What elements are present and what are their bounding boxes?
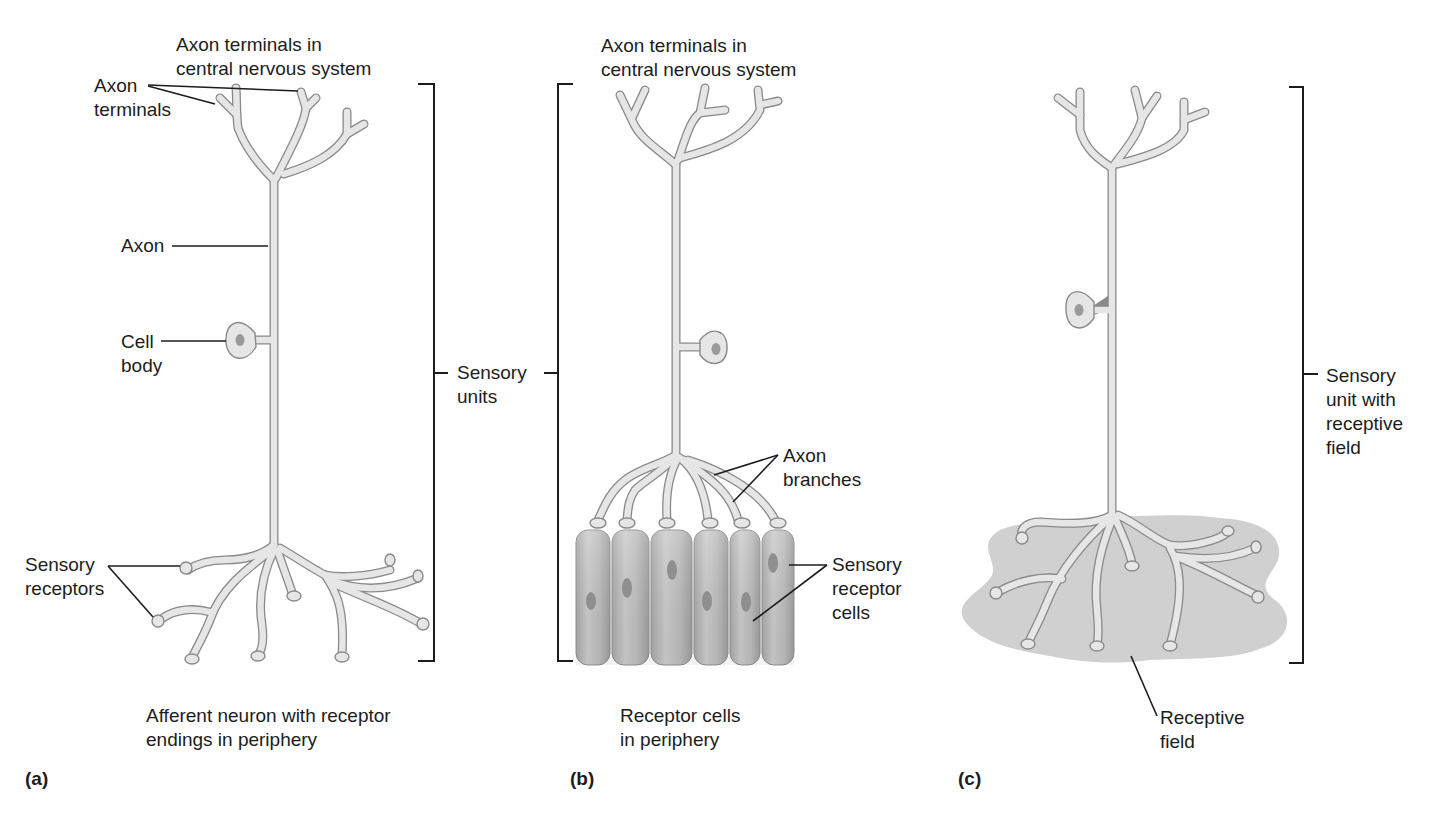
label-line: receptor	[832, 577, 902, 601]
nucleus	[1075, 304, 1084, 316]
panel-a-letter: (a)	[25, 768, 48, 790]
nucleus	[712, 343, 721, 355]
label-line: central nervous system	[176, 57, 371, 81]
axon-branches-label: Axon branches	[783, 444, 861, 492]
panel-b-letter: (b)	[570, 768, 594, 790]
caption-line: Receptor cells	[620, 704, 740, 728]
caption-line: Afferent neuron with receptor	[146, 704, 391, 728]
receptive-field-label: Receptive field	[1160, 706, 1245, 754]
label-line: receptive	[1326, 412, 1403, 436]
label-line: Axon terminals in	[601, 34, 796, 58]
label-line: Sensory	[832, 553, 902, 577]
panel-a-top-label: Axon terminals in central nervous system	[176, 33, 371, 81]
panel-a-caption: Afferent neuron with receptor endings in…	[146, 704, 391, 752]
panel-a-neuron	[152, 88, 429, 664]
label-line: receptors	[25, 577, 104, 601]
caption-line: in periphery	[620, 728, 740, 752]
label-line: Sensory	[25, 553, 104, 577]
caption-line: endings in periphery	[146, 728, 391, 752]
axon-branch-endings	[590, 518, 786, 528]
label-line: Axon	[783, 444, 861, 468]
sensory-unit-receptive-field-label: Sensory unit with receptive field	[1326, 364, 1403, 460]
label-line: Receptive	[1160, 706, 1245, 730]
label-line: field	[1326, 436, 1403, 460]
receptive-field-leader	[1131, 656, 1157, 716]
axon-terminals-label: Axon terminals	[94, 74, 171, 122]
sensory-receptor-cells-label: Sensory receptor cells	[832, 553, 902, 625]
label-line: unit with	[1326, 388, 1403, 412]
panel-b-caption: Receptor cells in periphery	[620, 704, 740, 752]
sensory-receptors-label: Sensory receptors	[25, 553, 104, 601]
label-line: cells	[832, 601, 902, 625]
label-line: Sensory	[457, 361, 527, 385]
bracket-b	[558, 84, 573, 661]
sensory-units-diagram	[0, 0, 1446, 820]
sensory-receptor-cells	[576, 530, 794, 665]
label-line: terminals	[94, 98, 171, 122]
label-line: Cell	[121, 330, 162, 354]
label-line: units	[457, 385, 527, 409]
label-line: Axon	[94, 74, 171, 98]
nucleus	[236, 334, 245, 346]
panel-c-letter: (c)	[958, 768, 981, 790]
bracket-c	[1289, 87, 1303, 663]
axon-label: Axon	[121, 234, 164, 258]
label-line: Axon terminals in	[176, 33, 371, 57]
label-line: central nervous system	[601, 58, 796, 82]
sensory-units-label: Sensory units	[457, 361, 527, 409]
panel-b-top-label: Axon terminals in central nervous system	[601, 34, 796, 82]
label-line: body	[121, 354, 162, 378]
label-line: Sensory	[1326, 364, 1403, 388]
cell-body-label: Cell body	[121, 330, 162, 378]
label-line: field	[1160, 730, 1245, 754]
label-line: branches	[783, 468, 861, 492]
